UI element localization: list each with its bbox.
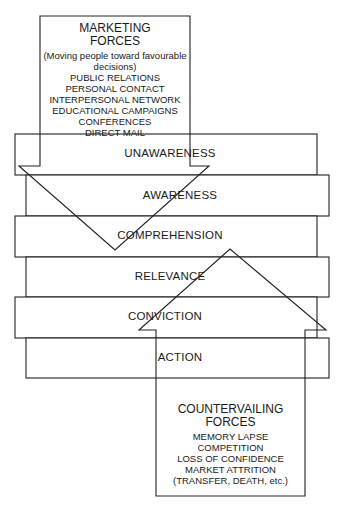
- marketing-forces-box: MARKETING FORCES (Moving people toward f…: [40, 20, 190, 138]
- marketing-force-item: PERSONAL CONTACT: [40, 83, 190, 94]
- marketing-force-item: EDUCATIONAL CAMPAIGNS: [40, 105, 190, 116]
- countervailing-force-item: (TRANSFER, DEATH, etc.): [156, 475, 305, 486]
- stage-label-relevance: RELEVANCE: [130, 270, 210, 282]
- marketing-force-item: PUBLIC RELATIONS: [40, 72, 190, 83]
- marketing-force-item: INTERPERSONAL NETWORK: [40, 94, 190, 105]
- stage-label-action: ACTION: [150, 351, 210, 363]
- stage-label-unawareness: UNAWARENESS: [120, 147, 220, 159]
- countervailing-forces-list: MEMORY LAPSE COMPETITION LOSS OF CONFIDE…: [156, 431, 305, 486]
- stage-label-awareness: AWARENESS: [130, 189, 230, 201]
- marketing-force-item: CONFERENCES: [40, 116, 190, 127]
- countervailing-forces-box: COUNTERVAILING FORCES MEMORY LAPSE COMPE…: [156, 403, 305, 486]
- marketing-forces-title: MARKETING FORCES: [40, 22, 190, 48]
- countervailing-force-item: MARKET ATTRITION: [156, 464, 305, 475]
- stage-label-comprehension: COMPREHENSION: [110, 229, 230, 241]
- stage-label-conviction: CONVICTION: [125, 310, 205, 322]
- countervailing-force-item: LOSS OF CONFIDENCE: [156, 453, 305, 464]
- countervailing-force-item: COMPETITION: [156, 442, 305, 453]
- marketing-forces-list: PUBLIC RELATIONS PERSONAL CONTACT INTERP…: [40, 72, 190, 138]
- marketing-force-item: DIRECT MAIL: [40, 127, 190, 138]
- countervailing-force-item: MEMORY LAPSE: [156, 431, 305, 442]
- countervailing-forces-title: COUNTERVAILING FORCES: [156, 403, 305, 429]
- marketing-forces-subtitle: (Moving people toward favourable decisio…: [40, 50, 190, 72]
